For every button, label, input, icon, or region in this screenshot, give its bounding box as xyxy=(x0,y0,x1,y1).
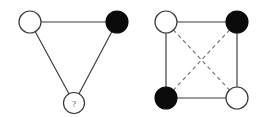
figure-root: ? xyxy=(0,0,268,117)
triangle-top-right-filled-node[interactable] xyxy=(106,11,128,33)
triangle-bottom-unknown-node-label: ? xyxy=(72,99,76,109)
square-edge-diagonal-top-right-to-bottom-left xyxy=(173,30,230,91)
square-bottom-left-filled-node[interactable] xyxy=(155,87,177,109)
square-top-right-filled-node[interactable] xyxy=(226,11,248,33)
triangle-nodes: ? xyxy=(19,11,128,114)
square-bottom-right-open-node[interactable] xyxy=(226,87,248,109)
triangle-edge-top-right-to-bottom xyxy=(79,31,112,94)
edges-layer xyxy=(35,22,237,98)
square-edge-diagonal-top-left-to-bottom-right xyxy=(173,30,230,91)
square-top-left-open-node[interactable] xyxy=(155,11,177,33)
square-edges xyxy=(166,22,237,98)
square-nodes xyxy=(155,11,248,109)
triangle-edge-top-left-to-bottom xyxy=(35,31,69,94)
triangle-top-left-open-node[interactable] xyxy=(19,11,41,33)
triangle-edges xyxy=(35,22,112,94)
diagram-canvas: ? xyxy=(0,0,268,117)
